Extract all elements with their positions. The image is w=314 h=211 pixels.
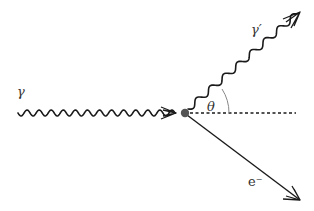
interaction-vertex <box>181 109 189 117</box>
incoming-photon-line <box>18 107 176 119</box>
electron-label: e⁻ <box>248 174 263 189</box>
angle-arc <box>222 89 229 113</box>
scattered-photon-line <box>188 12 300 109</box>
incoming-photon-label: γ <box>17 84 25 99</box>
angle-label: θ <box>207 99 215 114</box>
compton-scattering-diagram: γ θ γ′ e⁻ <box>0 0 314 211</box>
recoil-electron-line <box>187 115 300 200</box>
scattered-photon-label: γ′ <box>251 22 262 37</box>
